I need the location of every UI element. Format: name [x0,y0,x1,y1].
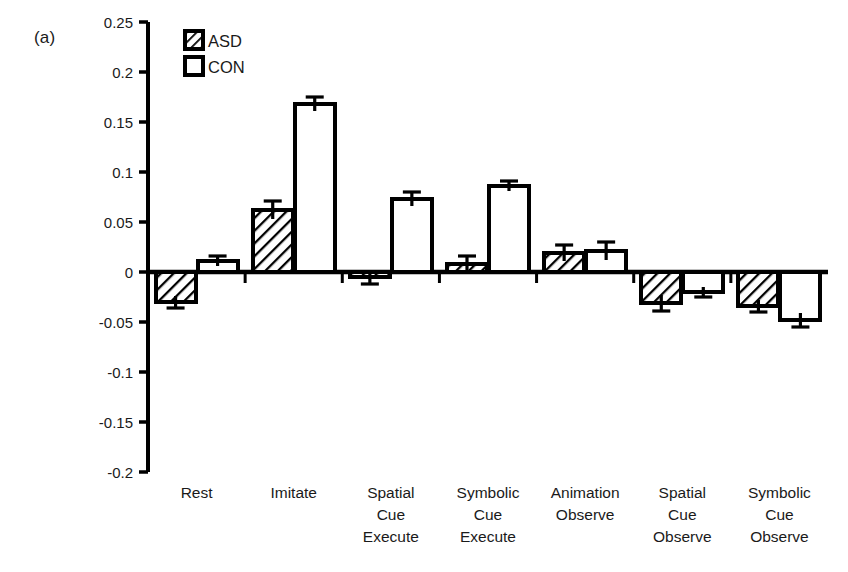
bar-asd [253,210,293,272]
x-tick-label: Observe [556,506,615,523]
x-tick-label: Execute [363,528,419,545]
legend-swatch-con [185,57,203,75]
bar-con [489,186,529,272]
x-tick-label: Observe [653,528,712,545]
y-tick-label: -0.2 [107,464,133,481]
y-tick-label: 0.25 [104,14,133,31]
bar-group [350,192,432,284]
x-tick-label: Cue [377,506,405,523]
x-tick-label: Execute [460,528,516,545]
bar-group [156,256,238,308]
x-tick-label: Cue [765,506,793,523]
panel-label: (a) [34,28,55,48]
bar-group [544,242,626,272]
legend-swatch-asd [185,31,203,49]
x-tick-label: Spatial [367,484,414,501]
bar-group [253,97,335,272]
bar-group [447,181,529,272]
y-tick-label: 0.15 [104,114,133,131]
bar-con [392,199,432,272]
y-tick-label: -0.1 [107,364,133,381]
legend-label-con: CON [208,58,245,76]
x-tick-label: Imitate [270,484,317,501]
x-tick-label: Rest [181,484,214,501]
legend: ASDCON [185,31,245,76]
y-tick-label: 0.05 [104,214,133,231]
x-tick-label: Cue [474,506,502,523]
x-tick-label: Cue [668,506,696,523]
x-tick-label: Observe [750,528,809,545]
y-tick-label: -0.15 [99,414,133,431]
bar-group [641,272,723,311]
y-tick-label: 0.2 [112,64,133,81]
bar-chart: 0.250.20.150.10.050-0.05-0.1-0.15-0.2Res… [0,0,848,572]
bar-con [780,272,820,320]
y-tick-label: -0.05 [99,314,133,331]
x-tick-label: Symbolic [457,484,520,501]
y-tick-label: 0 [125,264,133,281]
x-tick-label: Animation [551,484,620,501]
x-tick-label: Spatial [659,484,706,501]
x-tick-label: Symbolic [748,484,811,501]
figure-panel-a: (a) 0.250.20.150.10.050-0.05-0.1-0.15-0.… [0,0,848,572]
bar-con [295,104,335,272]
bar-group [738,272,820,327]
y-tick-label: 0.1 [112,164,133,181]
legend-label-asd: ASD [208,32,242,50]
